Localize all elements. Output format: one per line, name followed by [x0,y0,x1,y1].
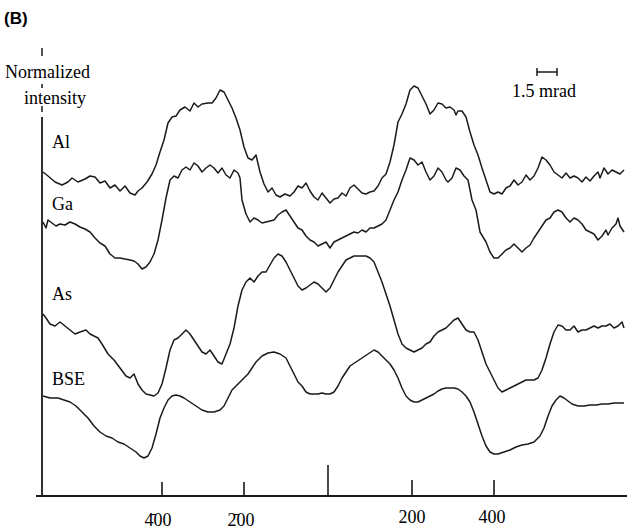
x-tick-labels: 4̄00 2̄00 200 400 [145,507,506,530]
series-label-al: Al [52,132,70,152]
curve-as [43,254,624,396]
series-label-as: As [52,284,72,304]
series-label-bse: BSE [52,369,85,389]
scale-bar-label: 1.5 mrad [512,81,576,101]
series-label-ga: Ga [52,194,73,214]
x-tick-label: 2̄00 [228,510,255,530]
chart-figure: (B) Normalized intensity 4̄00 2̄00 200 4… [0,0,627,531]
x-axis [36,465,627,496]
panel-label: (B) [4,9,28,28]
curve-bse [43,350,624,458]
y-axis-label-line2: intensity [24,88,86,108]
x-tick-label: 4̄00 [145,510,172,530]
curve-ga [43,158,624,269]
scale-bar [537,68,557,76]
x-tick-label: 400 [479,507,506,527]
y-axis-label-line1: Normalized [5,62,90,82]
x-tick-label: 200 [399,507,426,527]
curve-al [43,86,624,203]
